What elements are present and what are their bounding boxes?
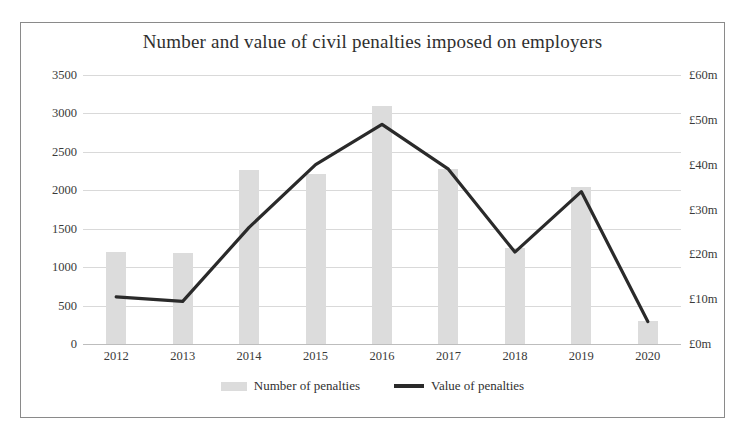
right-axis-tick-label: £40m bbox=[689, 157, 739, 172]
chart-title: Number and value of civil penalties impo… bbox=[21, 31, 724, 53]
category-tick-label: 2020 bbox=[635, 349, 660, 364]
plot-area bbox=[83, 75, 681, 344]
right-axis-tick-label: £50m bbox=[689, 112, 739, 127]
category-tick-label: 2017 bbox=[436, 349, 461, 364]
category-tick-label: 2013 bbox=[170, 349, 195, 364]
bar-swatch-icon bbox=[221, 382, 247, 391]
right-axis-tick-label: £60m bbox=[689, 68, 739, 83]
left-axis-tick-label: 0 bbox=[31, 337, 77, 352]
gridline bbox=[83, 344, 681, 345]
left-axis-tick-label: 2000 bbox=[31, 183, 77, 198]
category-tick-label: 2019 bbox=[569, 349, 594, 364]
legend-item-value-of-penalties[interactable]: Value of penalties bbox=[394, 378, 524, 394]
legend-label: Number of penalties bbox=[254, 378, 360, 394]
legend-item-number-of-penalties[interactable]: Number of penalties bbox=[221, 378, 360, 394]
right-value-axis: £0m£10m£20m£30m£40m£50m£60m bbox=[689, 75, 741, 344]
line-swatch-icon bbox=[394, 384, 424, 388]
category-tick-label: 2015 bbox=[303, 349, 328, 364]
left-axis-tick-label: 1000 bbox=[31, 260, 77, 275]
category-tick-label: 2012 bbox=[104, 349, 129, 364]
left-axis-tick-label: 1500 bbox=[31, 221, 77, 236]
chart-legend: Number of penalties Value of penalties bbox=[21, 378, 724, 394]
left-value-axis: 0500100015002000250030003500 bbox=[25, 75, 77, 344]
legend-label: Value of penalties bbox=[431, 378, 524, 394]
right-axis-tick-label: £10m bbox=[689, 292, 739, 307]
line-series-value-of-penalties bbox=[83, 75, 681, 344]
category-axis: 201220132014201520162017201820192020 bbox=[83, 349, 681, 371]
left-axis-tick-label: 500 bbox=[31, 298, 77, 313]
chart-container: Number and value of civil penalties impo… bbox=[20, 22, 725, 418]
right-axis-tick-label: £20m bbox=[689, 247, 739, 262]
left-axis-tick-label: 3000 bbox=[31, 106, 77, 121]
left-axis-tick-label: 3500 bbox=[31, 68, 77, 83]
left-axis-tick-label: 2500 bbox=[31, 144, 77, 159]
right-axis-tick-label: £0m bbox=[689, 337, 739, 352]
category-tick-label: 2018 bbox=[502, 349, 527, 364]
right-axis-tick-label: £30m bbox=[689, 202, 739, 217]
category-tick-label: 2014 bbox=[237, 349, 262, 364]
category-tick-label: 2016 bbox=[370, 349, 395, 364]
